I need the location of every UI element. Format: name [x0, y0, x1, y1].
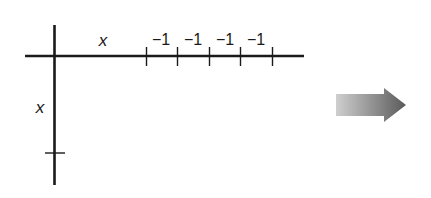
column-values: −1 −1 −1 −1	[152, 31, 265, 48]
column-value: −1	[152, 31, 170, 48]
row-header-x-label: x	[35, 98, 45, 117]
column-value: −1	[247, 31, 265, 48]
column-value: −1	[216, 31, 234, 48]
column-value: −1	[184, 31, 202, 48]
right-arrow-icon	[336, 88, 406, 122]
synthetic-division-diagram: x x −1 −1 −1 −1	[0, 0, 431, 198]
column-header-x-label: x	[98, 31, 108, 50]
